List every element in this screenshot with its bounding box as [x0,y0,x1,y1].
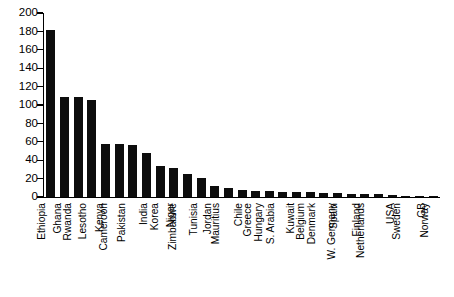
y-tick-mark-80 [37,123,43,124]
y-tick-mark-200 [37,12,43,13]
x-tick-label: Netherlands [355,203,365,258]
bar [183,174,192,197]
bar [319,193,328,197]
x-tick-label: Zimbabwe [168,203,178,250]
bar-slot [344,13,358,197]
bar [74,97,83,197]
bars-container [44,13,440,197]
bar-slot [413,13,427,197]
y-tick-mark-40 [37,160,43,161]
bar-slot [235,13,249,197]
bar [360,194,369,197]
x-tick-label: Sweden [391,203,401,240]
bar [142,153,151,197]
y-tick-label-100: 100 [0,99,38,111]
bar [292,192,301,197]
bar [210,186,219,197]
bar [156,166,165,197]
bar-slot [249,13,263,197]
x-tick-label: Rwanda [63,203,73,240]
bar-chart-figure: 020406080100120140160180200 EthiopiaGhan… [0,0,454,297]
bar [347,194,356,197]
bar-slot [153,13,167,197]
plot-area [44,13,440,197]
bar-slot [99,13,113,197]
bar [251,191,260,197]
x-tick-label: Norway [420,203,430,238]
bar-slot [112,13,126,197]
y-tick-mark-140 [37,68,43,69]
bar-slot [290,13,304,197]
bar-slot [331,13,345,197]
y-tick-label-60: 60 [0,136,38,148]
bar [415,196,424,197]
y-tick-label-0: 0 [0,191,38,203]
bar-slot [263,13,277,197]
x-tick-label: Greece [243,203,253,236]
bar [278,192,287,197]
y-tick-mark-100 [37,104,43,105]
x-tick-label: Lesotho [78,203,88,239]
bar [60,97,69,197]
bar-slot [140,13,154,197]
bar [169,168,178,197]
bar [87,100,96,197]
bar-slot [303,13,317,197]
bar [388,195,397,197]
bar-slot [181,13,195,197]
bar-slot [385,13,399,197]
bar-slot [426,13,440,197]
bar-slot [208,13,222,197]
x-tick-label: Denmark [307,203,317,244]
y-tick-label-20: 20 [0,173,38,185]
y-tick-mark-20 [37,178,43,179]
x-tick-label: Tunisia [189,203,199,235]
x-tick-label: Korea [150,203,160,230]
bar-slot [167,13,181,197]
x-tick-label: Ethiopia [36,203,46,240]
y-tick-label-40: 40 [0,154,38,166]
y-tick-label-80: 80 [0,118,38,130]
bar [46,30,55,197]
y-tick-label-140: 140 [0,62,38,74]
bar-slot [399,13,413,197]
x-label-slot: Netherlands [372,200,386,295]
y-tick-mark-60 [37,141,43,142]
bar [101,144,110,197]
bar-slot [71,13,85,197]
y-tick-mark-120 [37,86,43,87]
bar [238,190,247,197]
y-tick-mark-0 [37,196,43,197]
x-tick-label: Belgium [296,203,306,240]
bar-slot [194,13,208,197]
bar [224,188,233,197]
x-tick-label: W. Germany [327,203,337,260]
bar-slot [358,13,372,197]
x-tick-label: Pakistan [117,203,127,242]
y-tick-label-120: 120 [0,81,38,93]
bar-slot [58,13,72,197]
bar [115,144,124,197]
bar [197,178,206,197]
x-label-slot: Norway [426,200,440,295]
bar-slot [44,13,58,197]
x-tick-label: Cameroon [99,203,109,251]
x-tick-label: India [139,203,149,225]
y-tick-label-200: 200 [0,7,38,19]
bar-slot [85,13,99,197]
x-tick-label: Hungary [254,203,264,242]
x-tick-label: S. Arabia [266,203,276,244]
y-tick-label-180: 180 [0,26,38,38]
bar-slot [222,13,236,197]
y-tick-mark-180 [37,31,43,32]
bar-slot [317,13,331,197]
y-tick-label-160: 160 [0,44,38,56]
bar-slot [372,13,386,197]
bar [306,192,315,197]
x-axis-tick-labels: EthiopiaGhanaRwandaLesothoKenyaCameroonP… [44,200,440,295]
bar [429,196,438,197]
bar [401,196,410,197]
bar-slot [276,13,290,197]
bar [265,191,274,197]
bar [128,145,137,197]
